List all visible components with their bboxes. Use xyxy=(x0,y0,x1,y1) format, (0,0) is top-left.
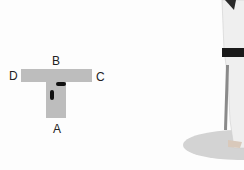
vertical-bar xyxy=(46,82,66,118)
label-c: C xyxy=(96,71,105,83)
martial-artist-photo xyxy=(212,0,244,150)
footprint-icon xyxy=(50,90,54,100)
label-a: A xyxy=(53,123,61,135)
label-b: B xyxy=(52,55,60,67)
horizontal-bar xyxy=(21,69,92,82)
footprint-icon xyxy=(56,82,66,86)
stance-diagram-figure: B D C A xyxy=(0,0,244,170)
label-d: D xyxy=(9,70,18,82)
